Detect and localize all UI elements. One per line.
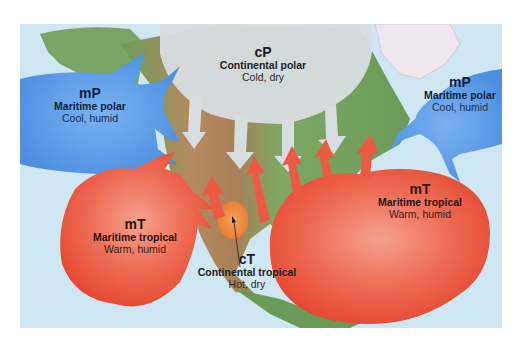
mt-atlantic-label: mT Maritime tropical Warm, humid bbox=[365, 182, 475, 220]
cp-code: cP bbox=[218, 45, 308, 60]
map-frame: cP Continental polar Cold, dry mP Mariti… bbox=[20, 24, 502, 328]
mt-pacific-label: mT Maritime tropical Warm, humid bbox=[85, 217, 185, 255]
cp-description: Cold, dry bbox=[218, 72, 308, 84]
mp-atlantic-code: mP bbox=[410, 75, 502, 90]
mt-pacific-description: Warm, humid bbox=[85, 244, 185, 256]
mt-pacific-code: mT bbox=[85, 217, 185, 232]
ct-label: cT Continental tropical Hot, dry bbox=[192, 252, 302, 290]
mp-pacific-label: mP Maritime polar Cool, humid bbox=[40, 86, 140, 124]
mp-atlantic-description: Cool, humid bbox=[410, 102, 502, 114]
ct-code: cT bbox=[192, 252, 302, 267]
mt-atlantic-description: Warm, humid bbox=[365, 209, 475, 221]
cp-label: cP Continental polar Cold, dry bbox=[218, 45, 308, 83]
ct-description: Hot, dry bbox=[192, 279, 302, 291]
mp-atlantic-label: mP Maritime polar Cool, humid bbox=[410, 75, 502, 113]
mp-pacific-description: Cool, humid bbox=[40, 113, 140, 125]
mt-atlantic-code: mT bbox=[365, 182, 475, 197]
mp-pacific-code: mP bbox=[40, 86, 140, 101]
